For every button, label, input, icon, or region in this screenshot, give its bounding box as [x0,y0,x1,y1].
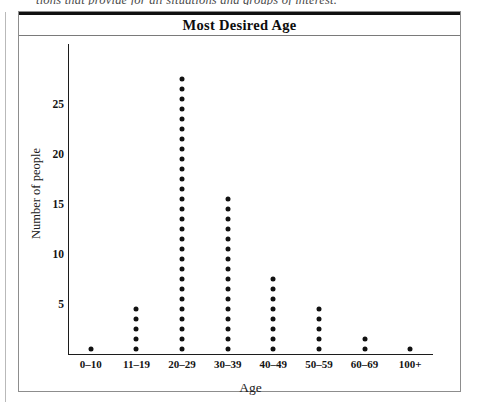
data-dot [180,97,185,102]
data-dot [316,327,321,332]
data-dot [180,297,185,302]
data-dot [180,137,185,142]
x-axis-line [68,354,433,355]
data-dot [316,307,321,312]
data-dot [180,177,185,182]
data-dot [180,257,185,262]
data-dot [316,317,321,322]
data-dot [271,347,276,352]
data-dot [225,347,230,352]
data-dot [316,347,321,352]
data-dot [225,247,230,252]
data-dot [225,197,230,202]
data-dot [180,337,185,342]
data-dot [225,227,230,232]
data-dot [180,187,185,192]
y-axis-line [68,44,69,355]
data-dot [225,207,230,212]
data-dot [180,77,185,82]
y-tick-label: 10 [20,248,64,260]
y-tick-label: 20 [20,148,64,160]
chart-title-band: Most Desired Age [19,15,460,36]
data-dot [180,217,185,222]
data-dot [180,157,185,162]
data-dot [180,267,185,272]
data-dot [225,327,230,332]
data-dot [225,287,230,292]
page-left-rule [5,12,6,402]
data-dot [180,247,185,252]
data-dot [180,307,185,312]
data-dot [180,147,185,152]
page-top-text-fragment: tions that provide for all situations an… [36,0,446,5]
data-dot [134,317,139,322]
data-dot [180,207,185,212]
data-dot [271,317,276,322]
data-dot [408,347,413,352]
data-dot [180,347,185,352]
data-dot [225,337,230,342]
data-dot [225,217,230,222]
data-dot [180,287,185,292]
plot-area: Number of people Age 510152025 0–1011–19… [18,36,461,392]
data-dot [271,287,276,292]
x-tick-label: 100+ [380,358,440,370]
data-dot [225,267,230,272]
data-dot [225,307,230,312]
data-dot [271,277,276,282]
data-dot [225,297,230,302]
y-axis-ticks: 510152025 [18,36,64,392]
data-dot [271,327,276,332]
data-dot [180,237,185,242]
data-dot [180,87,185,92]
data-dot [180,127,185,132]
data-dot [134,337,139,342]
chart-title: Most Desired Age [182,17,296,34]
data-dot [180,317,185,322]
data-dot [271,297,276,302]
data-dot [88,347,93,352]
data-dot [180,117,185,122]
data-dot [225,257,230,262]
data-dot [180,197,185,202]
data-dot [271,307,276,312]
data-dot [225,277,230,282]
data-dot [180,227,185,232]
data-dot [134,307,139,312]
data-dot [180,327,185,332]
data-dot [316,337,321,342]
data-dot [134,327,139,332]
data-dot [134,347,139,352]
data-dot [362,347,367,352]
data-dot [271,337,276,342]
y-tick-label: 5 [20,298,64,310]
data-dot [225,317,230,322]
x-axis-label: Age [68,380,433,396]
data-dot [180,277,185,282]
data-dot [180,167,185,172]
y-tick-label: 25 [20,98,64,110]
data-dot [180,107,185,112]
y-tick-label: 15 [20,198,64,210]
data-dot [362,337,367,342]
data-dot [225,237,230,242]
